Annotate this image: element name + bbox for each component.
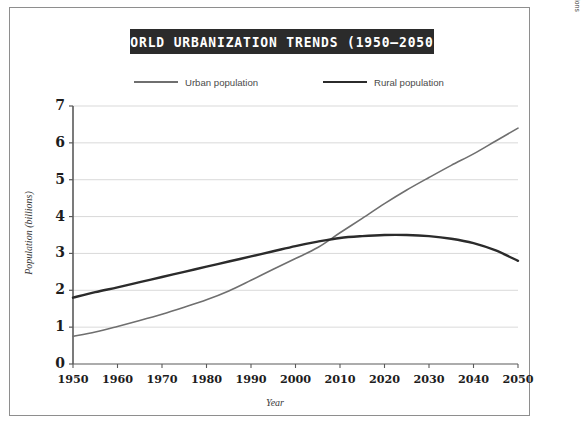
y-tick-label-0: 0: [43, 355, 65, 371]
x-tick-label-2000: 2000: [273, 372, 319, 386]
chart-legend: Urban population Rural population: [68, 72, 498, 92]
y-tick-label-6: 6: [43, 134, 65, 150]
legend-label-urban: Urban population: [185, 77, 258, 88]
y-tick-label-7: 7: [43, 97, 65, 113]
legend-item-rural-population: Rural population: [323, 72, 444, 92]
y-tick-label-4: 4: [43, 208, 65, 224]
x-tick-label-1950: 1950: [50, 372, 96, 386]
y-tick-label-3: 3: [43, 244, 65, 260]
x-tick-label-2040: 2040: [451, 372, 497, 386]
series-line-urban: [73, 128, 518, 336]
legend-item-urban-population: Urban population: [134, 72, 258, 92]
legend-label-rural: Rural population: [374, 77, 444, 88]
x-tick-label-2030: 2030: [406, 372, 452, 386]
source-note: Source: Department of Economic and Socia…: [574, 0, 581, 8]
y-tick-label-2: 2: [43, 281, 65, 297]
legend-swatch-rural-icon: [323, 81, 367, 83]
x-tick-label-1990: 1990: [228, 372, 274, 386]
chart-canvas: [30, 100, 530, 400]
figure-frame: WORLD URBANIZATION TRENDS (1950–2050) Ur…: [9, 7, 530, 416]
series-line-rural: [73, 235, 518, 298]
x-tick-label-2050: 2050: [495, 372, 541, 386]
x-axis-title: Year: [10, 397, 540, 408]
legend-swatch-urban-icon: [134, 81, 178, 83]
x-tick-label-1970: 1970: [139, 372, 185, 386]
y-tick-label-5: 5: [43, 171, 65, 187]
plot-area: 0123456719501960197019801990200020102020…: [30, 100, 530, 400]
x-tick-label-1980: 1980: [184, 372, 230, 386]
y-axis-title: Population (billions): [23, 163, 34, 303]
x-tick-label-1960: 1960: [95, 372, 141, 386]
y-tick-label-1: 1: [43, 318, 65, 334]
x-tick-label-2010: 2010: [317, 372, 363, 386]
page-title: WORLD URBANIZATION TRENDS (1950–2050): [122, 34, 443, 50]
chart-title-banner: WORLD URBANIZATION TRENDS (1950–2050): [130, 29, 434, 54]
x-tick-label-2020: 2020: [362, 372, 408, 386]
